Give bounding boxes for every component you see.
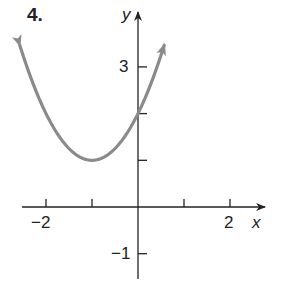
y-axis-label: y [122,6,131,23]
axes [22,12,265,279]
x-tick-label-2: 2 [224,214,233,231]
graph [0,0,285,304]
y-tick-label-3: 3 [119,58,128,75]
problem-number: 4. [27,4,43,26]
x-tick-label-neg2: −2 [31,214,50,231]
x-axis-label: x [252,214,261,231]
parabola-curve [20,45,164,160]
y-tick-label-neg1: −1 [111,245,130,262]
